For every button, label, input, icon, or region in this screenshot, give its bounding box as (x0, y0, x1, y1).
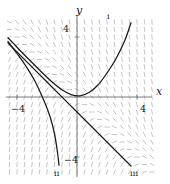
slope-mark (82, 111, 86, 113)
slope-mark (84, 35, 85, 39)
slope-mark (152, 72, 153, 76)
slope-mark (54, 35, 56, 39)
slope-mark (39, 125, 40, 129)
slope-mark (32, 155, 33, 159)
slope-mark (54, 117, 55, 121)
slope-mark (107, 50, 108, 54)
slope-mark (151, 148, 154, 152)
slope-mark (8, 57, 10, 61)
slope-mark (38, 43, 41, 46)
slope-mark (47, 132, 48, 136)
slope-mark (137, 87, 138, 91)
slope-mark (69, 147, 70, 151)
slope-mark (9, 132, 10, 136)
slope-mark (91, 80, 93, 84)
slope-mark (106, 103, 109, 107)
slope-mark (24, 170, 25, 174)
slope-mark (151, 117, 152, 121)
slope-mark (17, 117, 18, 121)
slope-mark (99, 50, 100, 54)
slope-mark (122, 35, 123, 39)
slope-mark (67, 81, 71, 83)
slope-mark (62, 162, 63, 166)
slope-mark (144, 117, 145, 121)
slope-mark (46, 20, 47, 24)
plot-canvas (0, 0, 170, 184)
slope-mark (114, 35, 115, 39)
slope-mark (127, 156, 131, 158)
slope-mark (84, 57, 85, 61)
slope-mark (54, 27, 55, 31)
slope-mark (122, 57, 123, 61)
slope-mark (114, 87, 115, 91)
slope-mark (113, 110, 116, 114)
x-tick-label-right: 4 (140, 104, 146, 114)
slope-mark (84, 50, 85, 54)
slope-mark (144, 50, 145, 54)
slope-mark (144, 35, 145, 39)
slope-mark (137, 80, 138, 84)
slope-mark (17, 132, 18, 136)
slope-mark (53, 102, 55, 106)
slope-mark (144, 72, 145, 76)
slope-mark (83, 88, 86, 91)
slope-mark (61, 110, 63, 114)
slope-mark (62, 147, 63, 151)
slope-mark (47, 140, 48, 144)
slope-mark (68, 65, 71, 69)
slope-mark (128, 133, 131, 136)
slope-mark (9, 125, 10, 129)
slope-mark (137, 27, 138, 31)
solution-curve-iii (8, 43, 131, 166)
slope-mark (84, 20, 85, 24)
slope-mark (106, 65, 107, 69)
slope-mark (114, 65, 115, 69)
slope-mark (121, 170, 123, 174)
slope-mark (142, 156, 146, 158)
slope-mark (69, 42, 70, 46)
slope-mark (143, 132, 145, 136)
slope-mark (39, 117, 40, 121)
slope-mark (129, 72, 130, 76)
slope-mark (122, 72, 123, 76)
slope-mark (98, 103, 101, 106)
slope-mark (107, 35, 108, 39)
slope-mark (122, 20, 123, 24)
slope-mark (9, 155, 10, 159)
slope-mark (38, 80, 41, 84)
slope-mark (105, 110, 108, 113)
slope-mark (30, 58, 34, 60)
slope-mark (46, 35, 48, 39)
slope-mark (152, 87, 153, 91)
slope-mark (61, 35, 62, 39)
slope-mark (61, 103, 64, 107)
slope-mark (144, 42, 145, 46)
slope-mark (69, 50, 71, 54)
slope-mark (151, 125, 152, 129)
slope-mark (9, 117, 10, 121)
slope-mark (129, 42, 130, 46)
slope-mark (113, 155, 116, 159)
slope-mark (142, 171, 146, 173)
slope-mark (99, 35, 100, 39)
slope-mark (24, 147, 25, 151)
slope-mark (46, 27, 48, 31)
slope-mark (99, 20, 100, 24)
slope-mark (137, 50, 138, 54)
curve-label-ii: ii (54, 170, 60, 178)
slope-mark (46, 43, 49, 47)
slope-mark (61, 132, 62, 136)
slope-mark (136, 110, 137, 114)
slope-mark (16, 58, 19, 62)
slope-mark (31, 20, 33, 24)
slope-mark (84, 147, 85, 151)
slope-mark (61, 42, 63, 46)
slope-mark (39, 102, 40, 106)
slope-mark (23, 28, 26, 31)
slope-mark (143, 140, 146, 144)
slope-mark (144, 27, 145, 31)
slope-mark (121, 87, 122, 91)
slope-mark (129, 80, 130, 84)
slope-mark (39, 170, 40, 174)
curve-label-i: i (107, 13, 110, 21)
